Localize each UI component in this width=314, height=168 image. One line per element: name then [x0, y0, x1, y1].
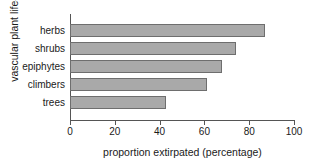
bar-climbers [70, 78, 207, 91]
x-tick-label: 100 [274, 126, 314, 138]
x-tick [115, 121, 116, 125]
x-tick-label: 60 [184, 126, 224, 138]
x-tick [70, 121, 71, 125]
x-tick [160, 121, 161, 125]
x-tick [249, 121, 250, 125]
category-label: climbers [28, 78, 65, 91]
x-axis-line [70, 120, 295, 121]
y-axis-title: vascular plant life-form [7, 0, 21, 89]
category-label: shrubs [35, 42, 65, 55]
x-tick-label: 40 [140, 126, 180, 138]
x-tick-label: 20 [95, 126, 135, 138]
bar-shrubs [70, 42, 236, 55]
plot-area: herbs shrubs epiphytes climbers trees [70, 14, 294, 120]
category-label: herbs [40, 24, 65, 37]
x-tick-label: 0 [50, 126, 90, 138]
category-label: epiphytes [22, 60, 65, 73]
bar-trees [70, 96, 166, 109]
bar-epiphytes [70, 60, 222, 73]
x-tick [294, 121, 295, 125]
x-tick [204, 121, 205, 125]
bar-chart: vascular plant life-form herbs shrubs ep… [0, 0, 314, 168]
x-axis-title: proportion extirpated (percentage) [70, 146, 295, 159]
x-tick-label: 80 [229, 126, 269, 138]
bar-herbs [70, 24, 265, 37]
category-label: trees [43, 96, 65, 109]
